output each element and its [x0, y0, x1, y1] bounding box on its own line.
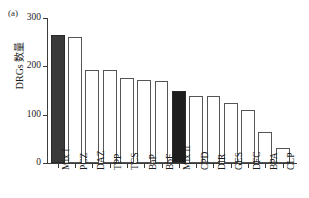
bar-series [47, 18, 297, 163]
x-tick-label: DFC [252, 152, 262, 170]
x-tick-mark [75, 164, 76, 168]
x-tick-mark [58, 164, 59, 168]
y-tick-label: 100 [27, 109, 41, 119]
x-tick-mark [144, 164, 145, 168]
x-tick-label: Mix I [61, 149, 71, 170]
y-tick-label: 300 [27, 12, 41, 22]
x-tick-label: GES [234, 152, 244, 170]
chart-figure: (a) DRGs 数量 0100200300 Mix IPCZDAZTPPTCS… [0, 0, 309, 198]
y-tick-label: 0 [36, 157, 41, 167]
panel-label: (a) [8, 8, 18, 18]
x-tick-mark [231, 164, 232, 168]
x-tick-mark [265, 164, 266, 168]
x-tick-mark [196, 164, 197, 168]
bar [137, 80, 151, 163]
x-tick-label: TPP [113, 154, 123, 170]
bar [85, 70, 99, 163]
x-tick-mark [92, 164, 93, 168]
x-tick-label: PCZ [79, 153, 89, 170]
bar [51, 35, 65, 163]
x-tick-label: DIR [217, 154, 227, 170]
x-tick-label: DAZ [96, 150, 106, 170]
y-tick-label: 200 [27, 60, 41, 70]
x-tick-label: TCS [130, 153, 140, 170]
x-tick-mark [179, 164, 180, 168]
x-tick-label: BPA [269, 152, 279, 170]
x-tick-label: BbF [165, 154, 175, 170]
x-tick-label: CLP [286, 153, 296, 170]
y-axis-title: DRGs 数量 [11, 18, 26, 114]
x-tick-label: BaP [148, 154, 158, 170]
bar [155, 81, 169, 163]
bar [120, 78, 134, 163]
x-tick-mark [110, 164, 111, 168]
y-tick-mark [43, 163, 47, 164]
x-tick-mark [162, 164, 163, 168]
x-tick-label: CPD [200, 152, 210, 170]
bar [68, 37, 82, 163]
x-tick-mark [127, 164, 128, 168]
x-tick-mark [248, 164, 249, 168]
x-tick-mark [213, 164, 214, 168]
x-tick-label: Mix II [182, 145, 192, 170]
plot-area: 0100200300 Mix IPCZDAZTPPTCSBaPBbFMix II… [47, 18, 297, 163]
x-tick-mark [283, 164, 284, 168]
